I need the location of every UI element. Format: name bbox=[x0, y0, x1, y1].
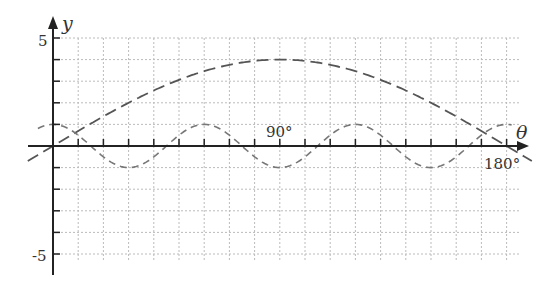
x-axis-label: θ bbox=[516, 121, 528, 143]
chart: y θ 5 -5 90° 180° bbox=[0, 0, 554, 285]
x-tick-label-90: 90° bbox=[266, 123, 293, 141]
x-tick-label-180: 180° bbox=[484, 155, 520, 173]
y-tick-label-5: 5 bbox=[38, 32, 48, 50]
y-axis-arrow-icon bbox=[48, 16, 58, 29]
grid-lines bbox=[53, 38, 519, 262]
y-axis-label: y bbox=[61, 12, 73, 34]
y-tick-label-neg5: -5 bbox=[32, 247, 47, 265]
